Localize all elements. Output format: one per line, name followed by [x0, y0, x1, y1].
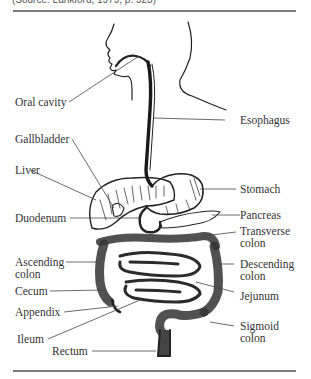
- leader-oral-cavity: [69, 56, 139, 102]
- duodenum: [140, 208, 161, 232]
- ascending-colon: [100, 244, 111, 302]
- label-ileum: Ileum: [17, 333, 44, 345]
- label-liver: Liver: [15, 164, 40, 176]
- back-of-head-neck: [180, 22, 226, 110]
- label-ascending-colon-line2: colon: [15, 268, 64, 280]
- label-descending-colon-line2: colon: [240, 270, 294, 282]
- liver-shading: [100, 186, 164, 220]
- label-descending-colon-line1: Descending: [240, 258, 294, 270]
- leader-sigmoid-colon: [210, 322, 234, 326]
- label-rectum: Rectum: [52, 345, 88, 357]
- label-ascending-colon: Ascending colon: [15, 256, 64, 280]
- label-stomach: Stomach: [240, 183, 280, 195]
- label-descending-colon: Descending colon: [240, 258, 294, 282]
- label-sigmoid-colon: Sigmoid colon: [240, 320, 279, 344]
- label-transverse-colon: Transverse colon: [240, 225, 290, 249]
- label-transverse-colon-line1: Transverse: [240, 225, 290, 237]
- leader-ileum: [48, 300, 140, 339]
- label-sigmoid-colon-line2: colon: [240, 332, 279, 344]
- transverse-colon: [100, 236, 216, 246]
- label-pancreas: Pancreas: [240, 209, 281, 221]
- leader-appendix: [64, 306, 118, 312]
- label-transverse-colon-line2: colon: [240, 237, 290, 249]
- descending-colon: [204, 246, 219, 312]
- label-jejunum: Jejunum: [240, 290, 279, 302]
- leader-esophagus: [154, 118, 225, 120]
- label-sigmoid-colon-line1: Sigmoid: [240, 320, 279, 332]
- label-esophagus: Esophagus: [240, 114, 290, 126]
- pancreas: [160, 211, 220, 228]
- pharynx: [116, 56, 150, 66]
- leader-cecum: [50, 290, 104, 291]
- rectum: [158, 330, 170, 356]
- label-appendix: Appendix: [15, 306, 60, 318]
- label-ascending-colon-line1: Ascending: [15, 256, 64, 268]
- small-intestine: [120, 252, 200, 302]
- label-gallbladder: Gallbladder: [15, 133, 69, 145]
- label-oral-cavity: Oral cavity: [15, 96, 66, 108]
- esophagus: [146, 62, 152, 186]
- label-cecum: Cecum: [15, 285, 48, 297]
- label-duodenum: Duodenum: [15, 212, 66, 224]
- gallbladder: [112, 203, 124, 216]
